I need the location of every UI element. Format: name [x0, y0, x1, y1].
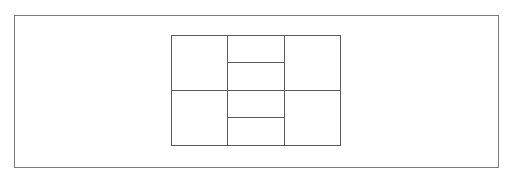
row-divider-middle — [171, 90, 341, 91]
middle-column-divider-top — [227, 62, 285, 63]
middle-column-divider-bottom — [227, 117, 285, 118]
diagram-canvas — [0, 0, 511, 181]
